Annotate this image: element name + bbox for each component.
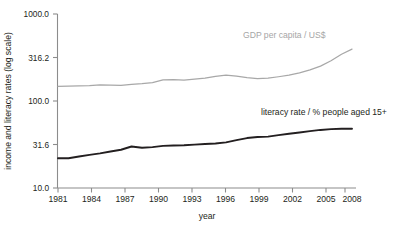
line-chart: 1000.0 316.2 100.0 31.6 10.0 income and … — [0, 0, 416, 229]
y-tick-label-1000: 1000.0 — [24, 9, 50, 19]
y-tick-label-10: 10.0 — [33, 183, 50, 193]
x-tick-label-1990: 1990 — [149, 194, 168, 204]
y-axis-title: income and literacy rates (log scale) — [3, 32, 13, 170]
gdp-series-label: GDP per capita / US$ — [243, 30, 326, 40]
y-tick-label-100: 100.0 — [28, 96, 49, 106]
x-tick-label-1981: 1981 — [48, 194, 67, 204]
x-tick-label-1984: 1984 — [82, 194, 101, 204]
x-tick-label-1987: 1987 — [115, 194, 134, 204]
literacy-series-label: literacy rate / % people aged 15+ — [261, 107, 387, 117]
x-tick-label-1999: 1999 — [249, 194, 268, 204]
y-tick-label-31: 31.6 — [33, 140, 50, 150]
x-axis-ticks — [58, 188, 345, 193]
x-tick-label-2002: 2002 — [283, 194, 302, 204]
x-axis-title: year — [199, 211, 216, 221]
series-line-gdp-per-capita — [58, 49, 352, 86]
y-axis-ticks — [53, 14, 58, 188]
series-line-literacy-rate — [58, 129, 352, 158]
y-tick-label-316: 316.2 — [28, 53, 49, 63]
x-tick-label-2008: 2008 — [342, 194, 361, 204]
chart-container: 1000.0 316.2 100.0 31.6 10.0 income and … — [0, 0, 416, 229]
x-tick-label-1993: 1993 — [182, 194, 201, 204]
x-tick-label-1996: 1996 — [216, 194, 235, 204]
x-tick-label-2005: 2005 — [316, 194, 335, 204]
